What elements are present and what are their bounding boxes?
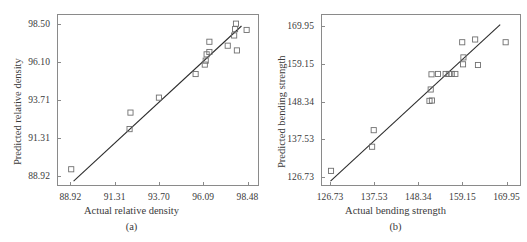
- data-point-marker: [503, 40, 508, 45]
- scatter-canvas-a: [58, 15, 258, 185]
- y-axis-tick-label: 126.73: [264, 172, 314, 182]
- x-axis-tick-label: 126.73: [317, 192, 344, 202]
- x-axis-tick-label: 91.31: [104, 192, 126, 202]
- figure-container: 88.9291.3193.7196.1098.50 88.9291.3193.7…: [0, 0, 527, 242]
- y-axis-tick-label: 98.50: [0, 19, 50, 29]
- y-axis-tick-label: 169.95: [264, 21, 314, 31]
- data-point-marker: [473, 37, 478, 42]
- x-axis-tick-label: 98.48: [237, 192, 259, 202]
- y-axis-tick-mark: [57, 176, 61, 177]
- x-axis-tick-mark: [462, 182, 463, 186]
- x-axis-tick-label: 96.09: [192, 192, 214, 202]
- x-axis-tick-mark: [418, 182, 419, 186]
- y-axis-tick-mark: [57, 138, 61, 139]
- panel-caption-b: (b): [264, 221, 527, 232]
- y-axis-tick-mark: [321, 177, 325, 178]
- y-axis-tick-label: 96.10: [0, 57, 50, 67]
- data-point-marker: [371, 128, 376, 133]
- y-axis-tick-label: 88.92: [0, 171, 50, 181]
- data-point-marker: [234, 48, 239, 53]
- data-point-marker: [232, 33, 237, 38]
- y-axis-tick-mark: [321, 26, 325, 27]
- y-axis-tick-label: 91.31: [0, 133, 50, 143]
- x-axis-title-a: Actual relative density: [0, 205, 263, 216]
- chart-panel-a: 88.9291.3193.7196.1098.50 88.9291.3193.7…: [0, 0, 263, 242]
- y-axis-tick-label: 148.34: [264, 97, 314, 107]
- y-axis-tick-label: 159.15: [264, 59, 314, 69]
- data-point-marker: [453, 71, 458, 76]
- plot-area-a: [57, 14, 259, 186]
- data-point-marker: [156, 95, 161, 100]
- x-axis-tick-label: 159.15: [449, 192, 476, 202]
- y-axis-tick-mark: [57, 62, 61, 63]
- x-axis-title-b: Actual bending strength: [264, 205, 527, 216]
- data-point-marker: [475, 62, 480, 67]
- x-axis-tick-mark: [115, 182, 116, 186]
- data-point-marker: [328, 168, 333, 173]
- data-point-marker: [207, 39, 212, 44]
- data-point-marker: [460, 40, 465, 45]
- data-point-marker: [69, 167, 74, 172]
- chart-panel-b: 126.73137.53148.34159.15169.95 126.73137…: [264, 0, 527, 242]
- plot-area-b: [321, 14, 521, 186]
- x-axis-tick-mark: [70, 182, 71, 186]
- x-axis-tick-label: 88.92: [59, 192, 81, 202]
- data-point-marker: [128, 110, 133, 115]
- x-axis-tick-mark: [159, 182, 160, 186]
- y-axis-tick-mark: [57, 100, 61, 101]
- regression-line: [74, 26, 242, 181]
- data-point-marker: [225, 43, 230, 48]
- data-point-marker: [233, 21, 238, 26]
- y-axis-tick-mark: [321, 139, 325, 140]
- data-point-marker: [193, 71, 198, 76]
- x-axis-tick-mark: [507, 182, 508, 186]
- data-point-marker: [435, 71, 440, 76]
- y-axis-tick-mark: [321, 64, 325, 65]
- panel-caption-a: (a): [0, 221, 263, 232]
- y-axis-tick-label: 137.53: [264, 134, 314, 144]
- x-axis-tick-label: 169.95: [493, 192, 520, 202]
- x-axis-tick-label: 137.53: [361, 192, 388, 202]
- y-axis-tick-mark: [321, 102, 325, 103]
- x-axis-tick-mark: [374, 182, 375, 186]
- x-axis-tick-mark: [248, 182, 249, 186]
- y-axis-title-a: Predicted relative density: [12, 58, 23, 165]
- x-axis-tick-label: 93.70: [148, 192, 170, 202]
- data-point-marker: [244, 27, 249, 32]
- data-point-marker: [429, 72, 434, 77]
- y-axis-tick-label: 93.71: [0, 95, 50, 105]
- y-axis-tick-mark: [57, 24, 61, 25]
- x-axis-tick-mark: [203, 182, 204, 186]
- regression-line: [330, 25, 500, 182]
- y-axis-title-b: Predicted bending strength: [276, 55, 287, 168]
- x-axis-tick-mark: [330, 182, 331, 186]
- data-point-marker: [460, 62, 465, 67]
- x-axis-tick-label: 148.34: [405, 192, 432, 202]
- scatter-canvas-b: [322, 15, 520, 185]
